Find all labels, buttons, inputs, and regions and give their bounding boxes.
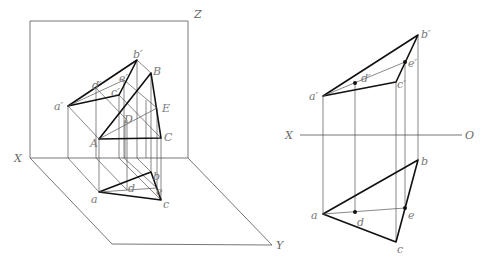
label-A: A — [89, 137, 98, 150]
label-E: E — [161, 102, 170, 115]
top-triangle-right — [323, 160, 418, 242]
label-e-prime-right: e′ — [408, 57, 418, 70]
label-b-right: b — [421, 155, 428, 168]
axis-label-x-right: X — [284, 129, 294, 142]
label-a-left: a — [91, 193, 98, 206]
label-e-left: e — [156, 185, 163, 198]
axis-label-z: Z — [193, 8, 202, 21]
left-pictorial-view: Z X Y a′ b′ c′ d′ e′ A B C D E a b c d e — [13, 8, 285, 252]
label-B: B — [152, 65, 161, 78]
label-c-left: c — [163, 198, 169, 211]
axis-label-y: Y — [276, 239, 285, 252]
point-d-prime — [353, 81, 357, 85]
point-e — [403, 206, 407, 210]
label-b-prime-left: b′ — [133, 48, 143, 61]
axis-label-x-left: X — [13, 152, 23, 165]
label-c-right: c — [397, 243, 403, 256]
label-d-prime-right: d′ — [361, 72, 371, 85]
label-d-right: d — [357, 216, 364, 229]
label-a-right: a — [311, 209, 318, 222]
axis-label-o: O — [465, 129, 474, 142]
label-b-prime-right: b′ — [421, 28, 431, 41]
label-d-left: d — [128, 182, 135, 195]
label-a-prime-left: a′ — [54, 100, 64, 113]
label-b-left: b — [153, 170, 160, 183]
label-e-right: e — [408, 209, 415, 222]
label-c-prime-right: c′ — [397, 78, 406, 91]
label-D: D — [123, 113, 133, 126]
label-c-prime-left: c′ — [111, 86, 120, 99]
projector-lines — [68, 60, 161, 200]
label-d-prime-left: d′ — [92, 79, 102, 92]
right-orthographic-view: X O a′ b′ c′ d′ e′ a b c d e — [284, 28, 474, 256]
label-e-prime-left: e′ — [119, 72, 129, 85]
point-e-prime — [403, 60, 407, 64]
line-de-right — [323, 208, 405, 214]
projection-diagram: Z X Y a′ b′ c′ d′ e′ A B C D E a b c d e… — [0, 0, 488, 266]
label-C: C — [164, 131, 173, 144]
label-a-prime-right: a′ — [309, 90, 319, 103]
point-d — [353, 210, 357, 214]
